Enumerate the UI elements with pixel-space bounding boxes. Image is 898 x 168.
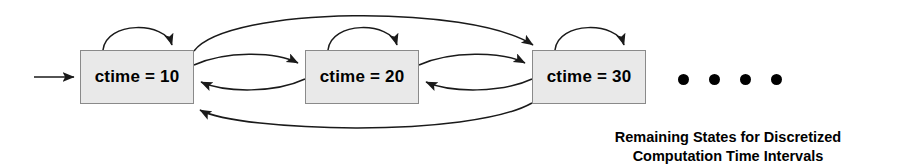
caption-line-1: Remaining States for Discretized [615, 128, 841, 147]
caption-line-2: Computation Time Intervals [615, 147, 841, 166]
ellipsis-remaining-states [678, 74, 782, 85]
transition-arrow-s2-to-s3 [419, 54, 525, 65]
ellipsis-dot [709, 74, 720, 85]
transition-arrow-s3-to-s2 [426, 79, 532, 90]
ellipsis-spacer [689, 79, 709, 80]
transition-arrow-s3-to-s1-long [200, 103, 532, 128]
transition-arrow-s2-to-s1 [201, 79, 305, 90]
self-loop-arrow-state-3 [555, 28, 624, 50]
transition-arrow-s1-to-s3-long [194, 16, 533, 51]
ellipsis-spacer [751, 79, 771, 80]
state-box-ctime-20[interactable]: ctime = 20 [305, 50, 419, 104]
state-diagram-canvas: ctime = 10 ctime = 20 ctime = 30 Remaini… [0, 0, 898, 168]
state-box-ctime-10[interactable]: ctime = 10 [80, 50, 194, 104]
self-loop-arrow-state-2 [328, 28, 397, 50]
remaining-states-caption: Remaining States for Discretized Computa… [615, 128, 841, 166]
state-label-ctime-30: ctime = 30 [547, 67, 632, 87]
state-label-ctime-10: ctime = 10 [95, 67, 180, 87]
ellipsis-spacer [720, 79, 740, 80]
self-loop-arrow-state-1 [103, 28, 172, 50]
state-label-ctime-20: ctime = 20 [320, 67, 405, 87]
ellipsis-dot [740, 74, 751, 85]
ellipsis-dot [678, 74, 689, 85]
ellipsis-dot [771, 74, 782, 85]
transition-arrow-s1-to-s2 [194, 54, 298, 65]
state-box-ctime-30[interactable]: ctime = 30 [532, 50, 646, 104]
